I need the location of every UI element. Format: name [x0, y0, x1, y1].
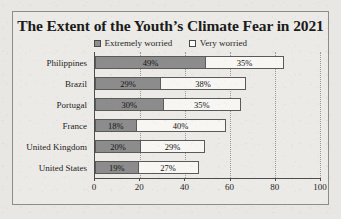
x-axis-tick-label: 60	[225, 182, 234, 192]
chart-legend: Extremely worried Very worried	[13, 38, 328, 48]
category-label: Philippines	[13, 52, 92, 73]
bar-value-label: 38%	[195, 79, 211, 89]
bar-value-label: 27%	[160, 163, 176, 173]
gridline	[320, 52, 321, 178]
x-axis-tick	[275, 178, 276, 181]
bar-segment-extremely-worried[interactable]: 29%	[95, 77, 160, 90]
bar-rows: 49%35%29%38%30%35%18%40%20%29%19%27%	[95, 52, 320, 178]
bar-segment-extremely-worried[interactable]: 20%	[95, 140, 140, 153]
bar-value-label: 29%	[165, 142, 181, 152]
bar-value-label: 20%	[110, 142, 126, 152]
category-label: Brazil	[13, 73, 92, 94]
bar-value-label: 18%	[108, 121, 124, 131]
bar-value-label: 30%	[121, 100, 137, 110]
legend-label-extremely-worried: Extremely worried	[105, 38, 173, 48]
bar-row[interactable]: 18%40%	[95, 115, 320, 136]
bar-row[interactable]: 30%35%	[95, 94, 320, 115]
bar-segment-very-worried[interactable]: 35%	[205, 56, 284, 69]
hollow-square-icon	[189, 40, 196, 47]
bar-segment-extremely-worried[interactable]: 30%	[95, 98, 163, 111]
x-axis-tick	[139, 178, 140, 181]
chart-title: The Extent of the Youth’s Climate Fear i…	[13, 17, 328, 35]
x-axis-tick	[94, 178, 95, 181]
x-axis-tick	[230, 178, 231, 181]
bar-value-label: 40%	[173, 121, 189, 131]
bar-row[interactable]: 49%35%	[95, 52, 320, 73]
category-label: United States	[13, 157, 92, 178]
bar-value-label: 19%	[109, 163, 125, 173]
x-axis-tick-label: 100	[313, 182, 327, 192]
x-axis-tick-labels: 020406080100	[94, 182, 320, 196]
bar-row[interactable]: 20%29%	[95, 136, 320, 157]
x-axis-tick-label: 80	[270, 182, 279, 192]
bar-segment-very-worried[interactable]: 29%	[140, 140, 205, 153]
filled-square-icon	[94, 40, 101, 47]
bar-segment-extremely-worried[interactable]: 19%	[95, 161, 138, 174]
plot-wrapper: Philippines Brazil Portugal France Unite…	[13, 52, 328, 194]
bar-segment-very-worried[interactable]: 40%	[136, 119, 226, 132]
bar-segment-extremely-worried[interactable]: 18%	[95, 119, 136, 132]
y-axis-category-labels: Philippines Brazil Portugal France Unite…	[13, 52, 92, 178]
x-axis-tick	[184, 178, 185, 181]
bar-segment-extremely-worried[interactable]: 49%	[95, 56, 205, 69]
x-axis-tick-label: 0	[92, 182, 97, 192]
legend-item-very-worried: Very worried	[189, 38, 247, 48]
category-label: Portugal	[13, 94, 92, 115]
x-axis: 020406080100	[94, 178, 320, 196]
x-axis-tick	[320, 178, 321, 181]
x-axis-tick-label: 20	[135, 182, 144, 192]
x-axis-line	[94, 178, 320, 179]
bar-segment-very-worried[interactable]: 35%	[163, 98, 242, 111]
bar-row[interactable]: 29%38%	[95, 73, 320, 94]
chart-container: The Extent of the Youth’s Climate Fear i…	[12, 11, 329, 205]
bar-segment-very-worried[interactable]: 27%	[138, 161, 199, 174]
bar-row[interactable]: 19%27%	[95, 157, 320, 178]
bar-value-label: 35%	[194, 100, 210, 110]
bar-segment-very-worried[interactable]: 38%	[160, 77, 246, 90]
category-label: United Kingdom	[13, 136, 92, 157]
legend-item-extremely-worried: Extremely worried	[94, 38, 172, 48]
plot-area: 49%35%29%38%30%35%18%40%20%29%19%27%	[94, 52, 320, 178]
bar-value-label: 35%	[237, 58, 253, 68]
x-axis-tick-label: 40	[180, 182, 189, 192]
legend-label-very-worried: Very worried	[200, 38, 247, 48]
category-label: France	[13, 115, 92, 136]
bar-value-label: 29%	[120, 79, 136, 89]
bar-value-label: 49%	[143, 58, 159, 68]
